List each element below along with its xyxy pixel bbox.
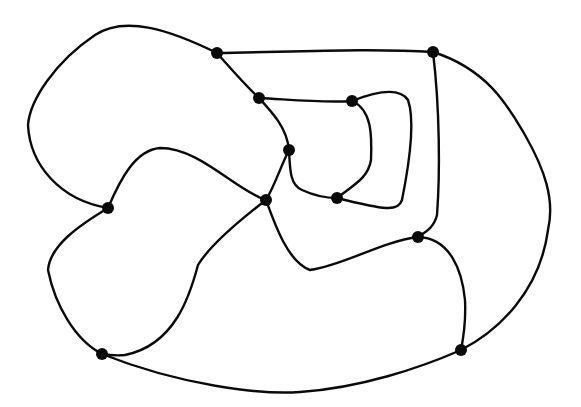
edge-j-k [102,350,461,393]
node-h [331,192,343,204]
node-c [253,92,265,104]
edge-i-k [418,237,465,350]
edge-b-k [433,52,550,350]
edge-f-g [108,148,266,208]
edge-f-j [48,208,108,354]
edge-g-j [102,200,266,355]
node-i [412,231,424,243]
node-e [283,144,295,156]
graph-nodes [96,46,467,360]
node-g [260,194,272,206]
node-b [427,46,439,58]
node-f [102,202,114,214]
edge-a-b [217,50,433,53]
edge-a-c [217,53,259,98]
edge-d-h [337,101,371,198]
node-d [346,95,358,107]
edge-e-g [266,150,289,200]
planar-graph-diagram [0,0,581,407]
edge-g-i [266,200,418,270]
edge-c-e [259,98,289,150]
node-j [96,348,108,360]
node-a [211,47,223,59]
node-k [455,344,467,356]
edge-b-i [418,52,439,237]
edge-c-d [259,98,352,102]
edge-e-h [289,150,337,198]
